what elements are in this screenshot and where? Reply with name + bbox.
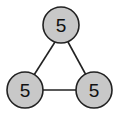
edge-top-bottom-right [68,42,86,75]
node-bottom-left-label: 5 [20,80,31,101]
edge-top-bottom-left [34,42,55,75]
node-bottom-right: 5 [76,72,112,108]
node-top-label: 5 [56,15,67,36]
graph-diagram: 5 5 5 [0,0,118,118]
node-top: 5 [43,7,79,43]
node-bottom-left: 5 [7,72,43,108]
node-bottom-right-label: 5 [89,80,100,101]
